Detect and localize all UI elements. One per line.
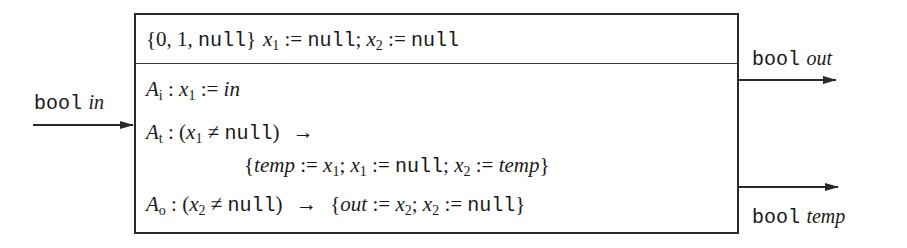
neq-op: ≠: [202, 120, 224, 144]
component-box: {0, 1, null} x1 := null; x2 := null Ai :…: [134, 13, 739, 234]
var-x2: x2: [367, 27, 383, 51]
null-literal: null: [307, 29, 355, 52]
brace: {: [244, 153, 254, 177]
state-declaration: {0, 1, null} x1 := null; x2 := null: [146, 29, 459, 53]
action-output: Ao : (x2 ≠ null) → {out := x2; x2 := nul…: [146, 194, 525, 218]
null-literal: null: [224, 122, 272, 145]
action-label: Ai: [146, 77, 163, 101]
input-port-type: bool: [34, 92, 82, 115]
action-transfer-body: {temp := x1; x1 := null; x2 := temp}: [244, 155, 550, 179]
null-literal: null: [395, 155, 443, 178]
var-x2: x2: [423, 192, 439, 216]
action-transfer-guard: At : (x1 ≠ null) →: [146, 122, 314, 146]
input-port-label: bool in: [34, 90, 104, 115]
var-x1: x1: [351, 153, 367, 177]
output-port-label-temp: bool temp: [752, 204, 845, 229]
var-x1: x1: [186, 120, 202, 144]
domain-open: {0, 1,: [146, 27, 198, 51]
output-port-label-out: bool out: [752, 46, 832, 71]
separator: ;: [443, 153, 454, 177]
output-port-name: temp: [806, 205, 845, 227]
var-temp: temp: [254, 153, 295, 177]
output-port-name: out: [806, 47, 832, 69]
assign-op: :=: [439, 192, 467, 216]
var-x1: x1: [179, 77, 195, 101]
domain-close: }: [246, 27, 256, 51]
var-x2: x2: [189, 192, 205, 216]
paren: ): [272, 120, 279, 144]
header-divider: [136, 63, 737, 64]
action-input: Ai : x1 := in: [146, 79, 240, 103]
domain-null: null: [198, 29, 246, 52]
output-port-type: bool: [752, 48, 800, 71]
input-port-name: in: [88, 91, 104, 113]
var-out: out: [340, 192, 367, 216]
null-literal: null: [228, 194, 276, 217]
neq-op: ≠: [206, 192, 228, 216]
paren: (: [179, 120, 186, 144]
brace: }: [540, 153, 550, 177]
implies-arrow: →: [296, 192, 317, 216]
assign-op: :=: [383, 27, 411, 51]
null-literal: null: [411, 29, 459, 52]
var-x1: x1: [263, 27, 279, 51]
input-var: in: [224, 77, 240, 101]
colon: :: [163, 77, 179, 101]
null-literal: null: [467, 194, 515, 217]
action-label: At: [146, 120, 163, 144]
separator: ;: [339, 153, 350, 177]
assign-op: :=: [195, 77, 223, 101]
separator: ;: [355, 27, 366, 51]
assign-op: :=: [295, 153, 323, 177]
brace: {: [330, 192, 340, 216]
action-label: Ao: [146, 192, 166, 216]
brace: }: [515, 192, 525, 216]
colon: :: [166, 192, 182, 216]
assign-op: :=: [279, 27, 307, 51]
separator: ;: [412, 192, 423, 216]
assign-op: :=: [367, 153, 395, 177]
assign-op: :=: [470, 153, 498, 177]
var-x2: x2: [395, 192, 411, 216]
output-port-type: bool: [752, 206, 800, 229]
var-x2: x2: [454, 153, 470, 177]
var-x1: x1: [323, 153, 339, 177]
var-temp: temp: [499, 153, 540, 177]
colon: :: [163, 120, 179, 144]
assign-op: :=: [367, 192, 395, 216]
implies-arrow: →: [293, 120, 314, 144]
paren: ): [276, 192, 283, 216]
